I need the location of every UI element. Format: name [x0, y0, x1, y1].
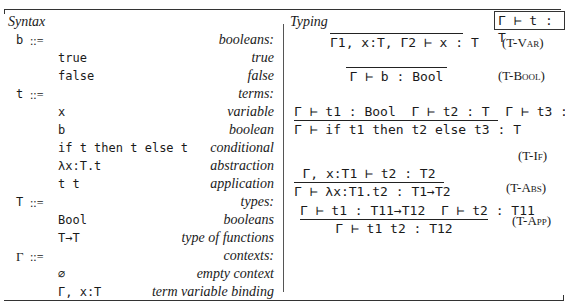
- production-description: types:: [241, 194, 274, 210]
- grammar-row: b boolean: [0, 122, 278, 140]
- figure-frame-corner: [563, 295, 564, 301]
- inference-bar: [330, 33, 463, 34]
- nonterminal: t: [16, 87, 23, 101]
- nonterminal: T: [16, 195, 23, 209]
- inference-rule-t-app: Γ ⊢ t1 : T11→T12 Γ ⊢ t2 : T11 Γ ⊢ t1 t2 …: [300, 203, 488, 236]
- production-description: contexts:: [223, 248, 274, 264]
- production-description: empty context: [197, 266, 274, 282]
- inference-bar: [294, 120, 498, 121]
- grammar-row: ∅ empty context: [0, 266, 278, 284]
- syntax-title: Syntax: [8, 14, 45, 30]
- production-description: true: [251, 50, 274, 66]
- production-description: variable: [227, 104, 274, 120]
- rule-premises: Γ, x:T1 ⊢ t2 : T2: [294, 166, 444, 181]
- grammar-row: Γ, x:T term variable binding: [0, 284, 278, 302]
- rule-name: (T-Bool): [498, 68, 545, 84]
- rule-premises: Γ ⊢ t1 : T11→T12 Γ ⊢ t2 : T11: [300, 203, 488, 218]
- judgment-form-box: Γ ⊢ t : T: [494, 11, 565, 30]
- production-description: boolean: [229, 122, 274, 138]
- rule-conclusion: Γ ⊢ t1 t2 : T12: [300, 221, 488, 236]
- grammar-row: t t application: [0, 176, 278, 194]
- rule-premises: Γ ⊢ t1 : Bool Γ ⊢ t2 : T Γ ⊢ t3 : T: [294, 104, 498, 119]
- grammar-row: false false: [0, 68, 278, 86]
- grammar-row: true true: [0, 50, 278, 68]
- production-description: abstraction: [210, 158, 274, 174]
- production-form: false: [58, 69, 94, 83]
- figure-frame-top: [4, 9, 561, 10]
- rule-name: (T-App): [512, 213, 551, 229]
- production-description: booleans: [223, 212, 274, 228]
- defines-symbol: ::=: [30, 250, 43, 265]
- production-form: λx:T.t: [58, 159, 101, 173]
- grammar-row: x variable: [0, 104, 278, 122]
- production-form: if t then t else t: [58, 141, 188, 155]
- production-description: false: [248, 68, 274, 84]
- production-description: conditional: [210, 140, 274, 156]
- rule-conclusion: Γ1, x:T, Γ2 ⊢ x : T: [330, 35, 463, 50]
- inference-bar: [346, 67, 447, 68]
- rule-conclusion: Γ ⊢ if t1 then t2 else t3 : T: [294, 122, 498, 137]
- production-description: terms:: [238, 86, 274, 102]
- production-description: type of functions: [181, 230, 274, 246]
- nonterminal: b: [16, 33, 23, 47]
- grammar-row: if t then t else t conditional: [0, 140, 278, 158]
- rule-name: (T-If): [518, 148, 547, 164]
- defines-symbol: ::=: [30, 196, 43, 211]
- production-form: Γ, x:T: [58, 285, 101, 299]
- inference-rule-t-var: Γ1, x:T, Γ2 ⊢ x : T: [330, 32, 463, 50]
- production-description: application: [210, 176, 274, 192]
- defines-symbol: ::=: [30, 34, 43, 49]
- inference-rule-t-abs: Γ, x:T1 ⊢ t2 : T2 Γ ⊢ λx:T1.t2 : T1→T2: [294, 166, 444, 199]
- production-form: T→T: [58, 231, 80, 245]
- inference-bar: [300, 219, 488, 220]
- inference-rule-t-if: Γ ⊢ t1 : Bool Γ ⊢ t2 : T Γ ⊢ t3 : T Γ ⊢ …: [294, 104, 498, 137]
- grammar-row: Γ ::= contexts:: [0, 248, 278, 266]
- rule-name: (T-Var): [502, 35, 544, 51]
- rule-conclusion: Γ ⊢ λx:T1.t2 : T1→T2: [294, 184, 444, 199]
- production-form: x: [58, 105, 65, 119]
- grammar-row: b ::= booleans:: [0, 32, 278, 50]
- production-description: booleans:: [219, 32, 274, 48]
- rule-conclusion: Γ ⊢ b : Bool: [346, 69, 447, 84]
- column-divider: [283, 24, 284, 292]
- production-form: t t: [58, 177, 80, 191]
- grammar-row: t ::= terms:: [0, 86, 278, 104]
- grammar-row: T ::= types:: [0, 194, 278, 212]
- rule-name: (T-Abs): [506, 180, 546, 196]
- typing-title: Typing: [290, 14, 328, 30]
- nonterminal: Γ: [16, 249, 24, 265]
- production-description: term variable binding: [152, 284, 274, 300]
- figure-frame-corner: [4, 9, 5, 14]
- production-form: b: [58, 123, 65, 137]
- inference-rule-t-bool: Γ ⊢ b : Bool: [346, 66, 447, 84]
- production-form: Bool: [58, 213, 87, 227]
- production-form: true: [58, 51, 87, 65]
- grammar-row: λx:T.t abstraction: [0, 158, 278, 176]
- production-form: ∅: [58, 267, 65, 281]
- inference-bar: [294, 182, 444, 183]
- defines-symbol: ::=: [30, 88, 43, 103]
- grammar-row: Bool booleans: [0, 212, 278, 230]
- grammar-row: T→T type of functions: [0, 230, 278, 248]
